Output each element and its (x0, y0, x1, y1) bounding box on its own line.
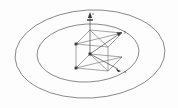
axis-label-y: y (124, 29, 127, 34)
diagram-canvas: z y x (0, 0, 178, 108)
upper-plane-diagonal-b (76, 33, 122, 44)
left-edge-marker (75, 67, 78, 70)
origin-marker (89, 53, 92, 56)
left-upper-edge-marker (75, 43, 78, 46)
axis-label-x: x (124, 69, 127, 74)
axis-label-z: z (92, 11, 94, 16)
figure-container: z y x (0, 0, 178, 108)
axis-arrowhead-x (116, 68, 121, 72)
